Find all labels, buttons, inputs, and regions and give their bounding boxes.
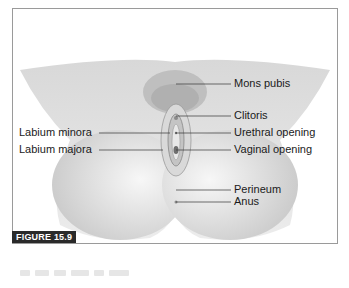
- label-mons-pubis: Mons pubis: [234, 77, 290, 90]
- caption-placeholder: [20, 262, 320, 272]
- label-labium-majora: Labium majora: [19, 143, 92, 156]
- label-clitoris: Clitoris: [234, 109, 268, 122]
- clitoris-shape: [174, 116, 178, 120]
- label-urethral-opening: Urethral opening: [234, 126, 315, 139]
- label-anus: Anus: [234, 195, 259, 208]
- figure-number-tag: FIGURE 15.9: [12, 231, 76, 243]
- label-labium-minora: Labium minora: [19, 126, 92, 139]
- label-vaginal-opening: Vaginal opening: [234, 143, 312, 156]
